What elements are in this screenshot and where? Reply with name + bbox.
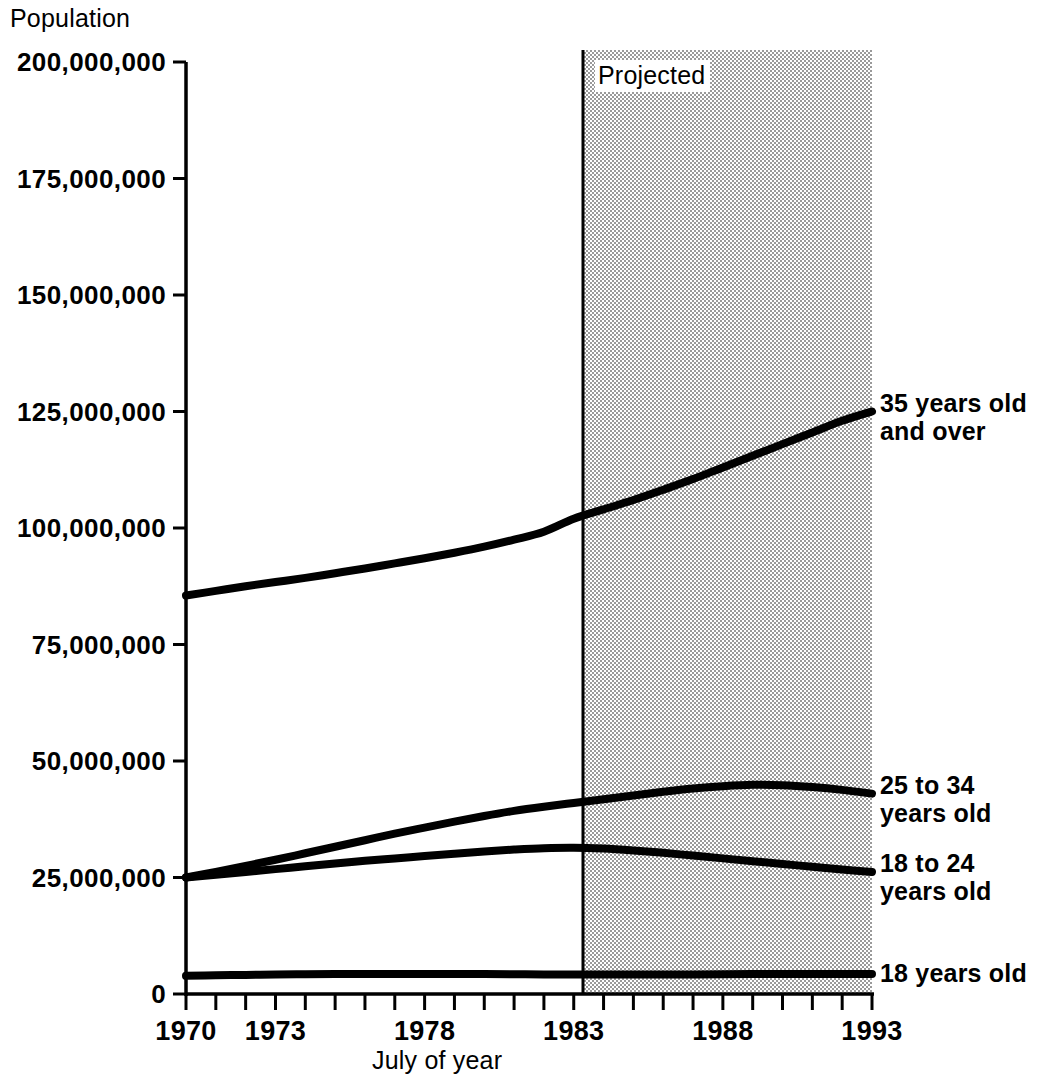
y-tick-label: 25,000,000 <box>32 862 166 893</box>
y-tick-label: 200,000,000 <box>17 47 166 78</box>
x-axis-ticks <box>186 994 872 1010</box>
series-label-0: 35 years old and over <box>880 389 1027 445</box>
y-tick-label: 175,000,000 <box>17 163 166 194</box>
x-tick-label: 1993 <box>841 1016 902 1047</box>
series-label-1: 25 to 34 years old <box>880 771 992 827</box>
series-label-2: 18 to 24 years old <box>880 849 992 905</box>
y-tick-label: 100,000,000 <box>17 513 166 544</box>
x-tick-label: 1973 <box>245 1016 306 1047</box>
series-label-3: 18 years old <box>880 959 1027 987</box>
x-tick-label: 1988 <box>692 1016 753 1047</box>
y-axis-ticks <box>173 62 186 994</box>
projected-annotation-label: Projected <box>595 60 710 92</box>
x-tick-label: 1978 <box>394 1016 455 1047</box>
population-line-chart: Population July of year 025,000,00050,00… <box>0 0 1046 1083</box>
y-tick-label: 50,000,000 <box>32 746 166 777</box>
series-line-3 <box>186 974 872 976</box>
y-tick-label: 150,000,000 <box>17 280 166 311</box>
x-tick-label: 1983 <box>543 1016 604 1047</box>
y-tick-label: 75,000,000 <box>32 629 166 660</box>
y-tick-label: 125,000,000 <box>17 396 166 427</box>
y-tick-label: 0 <box>151 979 166 1010</box>
x-tick-label: 1970 <box>155 1016 216 1047</box>
